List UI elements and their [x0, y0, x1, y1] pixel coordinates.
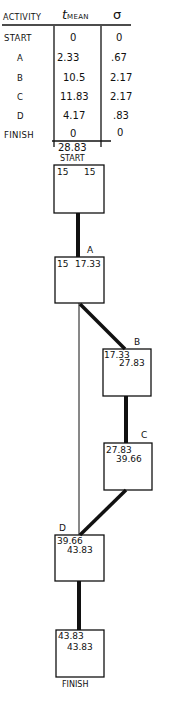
row-t-mean: 4.17	[63, 111, 85, 121]
header-mean-subscript: MEAN	[67, 13, 89, 21]
node-late-start: 15	[84, 168, 95, 177]
node-late-b: 27.83	[119, 359, 145, 368]
node-label-finish: FINISH	[62, 681, 88, 689]
row-t-mean: 11.83	[60, 92, 89, 102]
row-t-mean: 0	[70, 33, 76, 43]
network-diagram-lines	[0, 0, 171, 704]
row-activity: D	[17, 112, 24, 121]
row-activity: START	[4, 34, 32, 43]
row-sigma: 2.17	[110, 73, 132, 83]
edge-a-b	[80, 304, 125, 349]
row-sigma: 0	[116, 33, 122, 43]
node-label-start: START	[60, 155, 85, 163]
node-early-start: 15	[57, 168, 68, 177]
row-activity: A	[17, 54, 23, 63]
node-late-d: 43.83	[67, 546, 93, 555]
node-late-a: 17.33	[75, 260, 101, 269]
header-sigma: σ	[113, 8, 121, 21]
node-label-b: B	[134, 338, 140, 347]
node-label-d: D	[59, 524, 66, 533]
row-sigma: 0	[117, 128, 123, 138]
row-activity: FINISH	[4, 131, 34, 140]
row-t-mean: 0	[70, 129, 76, 139]
row-sigma: .83	[113, 111, 129, 121]
table-total: 28.83	[58, 143, 87, 153]
row-sigma: 2.17	[110, 92, 132, 102]
node-early-a: 15	[57, 260, 68, 269]
row-activity: B	[17, 74, 23, 83]
row-sigma: .67	[111, 53, 127, 63]
header-activity: ACTIVITY	[3, 14, 41, 22]
node-label-a: A	[87, 246, 93, 255]
row-activity: C	[17, 93, 23, 102]
header-t-mean: tMEAN	[62, 8, 89, 21]
row-t-mean: 10.5	[63, 73, 85, 83]
node-late-finish: 43.83	[67, 643, 93, 652]
edge-c-d	[80, 490, 126, 535]
node-label-c: C	[141, 431, 147, 440]
node-early-finish: 43.83	[58, 632, 84, 641]
node-late-c: 39.66	[116, 455, 142, 464]
row-t-mean: 2.33	[57, 53, 79, 63]
